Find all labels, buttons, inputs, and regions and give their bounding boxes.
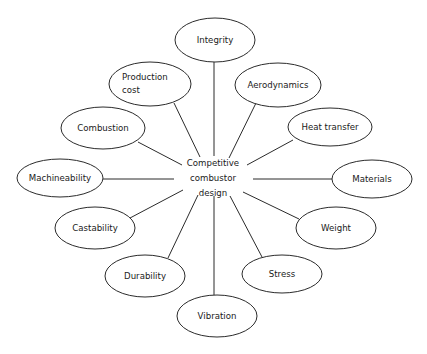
node-weight[interactable]: Weight <box>296 207 376 249</box>
node-materials[interactable]: Materials <box>332 160 412 198</box>
node-integrity[interactable]: Integrity <box>175 18 255 62</box>
node-label-aerodynamics: Aerodynamics <box>248 80 309 90</box>
node-label-integrity: Integrity <box>197 35 233 45</box>
node-label-vibration: Vibration <box>198 311 237 321</box>
hub-label-line-2: combustor <box>190 173 236 183</box>
node-label-weight: Weight <box>321 223 352 233</box>
spoke-line-combustion <box>138 142 182 165</box>
hub-node: Competitive combustor design <box>187 158 239 198</box>
node-label-production-cost-line-1: Production <box>122 72 168 82</box>
node-production-cost[interactable]: Productioncost <box>109 62 191 106</box>
radial-diagram: IntegrityAerodynamicsHeat transferMateri… <box>0 0 427 354</box>
spoke-line-heat-transfer <box>247 140 293 165</box>
hub-label-line-3: design <box>199 188 228 198</box>
node-durability[interactable]: Durability <box>105 255 185 297</box>
node-label-materials: Materials <box>352 174 392 184</box>
node-combustion[interactable]: Combustion <box>61 107 145 149</box>
node-label-machineability: Machineability <box>29 173 91 183</box>
spoke-line-weight <box>243 192 299 219</box>
node-ellipse-production-cost[interactable] <box>109 62 191 106</box>
spoke-line-durability <box>168 195 198 258</box>
node-vibration[interactable]: Vibration <box>177 295 257 337</box>
node-label-durability: Durability <box>124 271 166 281</box>
hub-label-line-1: Competitive <box>187 158 239 168</box>
spoke-line-aerodynamics <box>229 103 256 158</box>
node-castability[interactable]: Castability <box>55 207 135 249</box>
spoke-line-production-cost <box>174 103 200 157</box>
node-label-castability: Castability <box>72 223 117 233</box>
spoke-line-stress <box>230 196 262 257</box>
node-machineability[interactable]: Machineability <box>17 159 103 197</box>
node-aerodynamics[interactable]: Aerodynamics <box>235 63 321 107</box>
node-label-stress: Stress <box>269 269 296 279</box>
node-stress[interactable]: Stress <box>242 255 322 293</box>
spoke-line-castability <box>130 190 183 218</box>
node-label-production-cost-line-2: cost <box>122 85 140 95</box>
node-label-heat-transfer: Heat transfer <box>301 122 359 132</box>
node-label-combustion: Combustion <box>77 123 128 133</box>
node-heat-transfer[interactable]: Heat transfer <box>288 108 372 146</box>
diagram-canvas: IntegrityAerodynamicsHeat transferMateri… <box>0 0 427 354</box>
